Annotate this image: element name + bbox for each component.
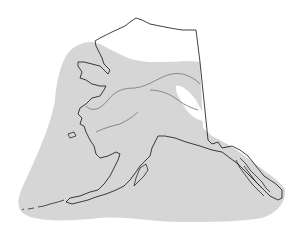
- range-area: [18, 42, 285, 222]
- alaska-range-map: [0, 0, 305, 234]
